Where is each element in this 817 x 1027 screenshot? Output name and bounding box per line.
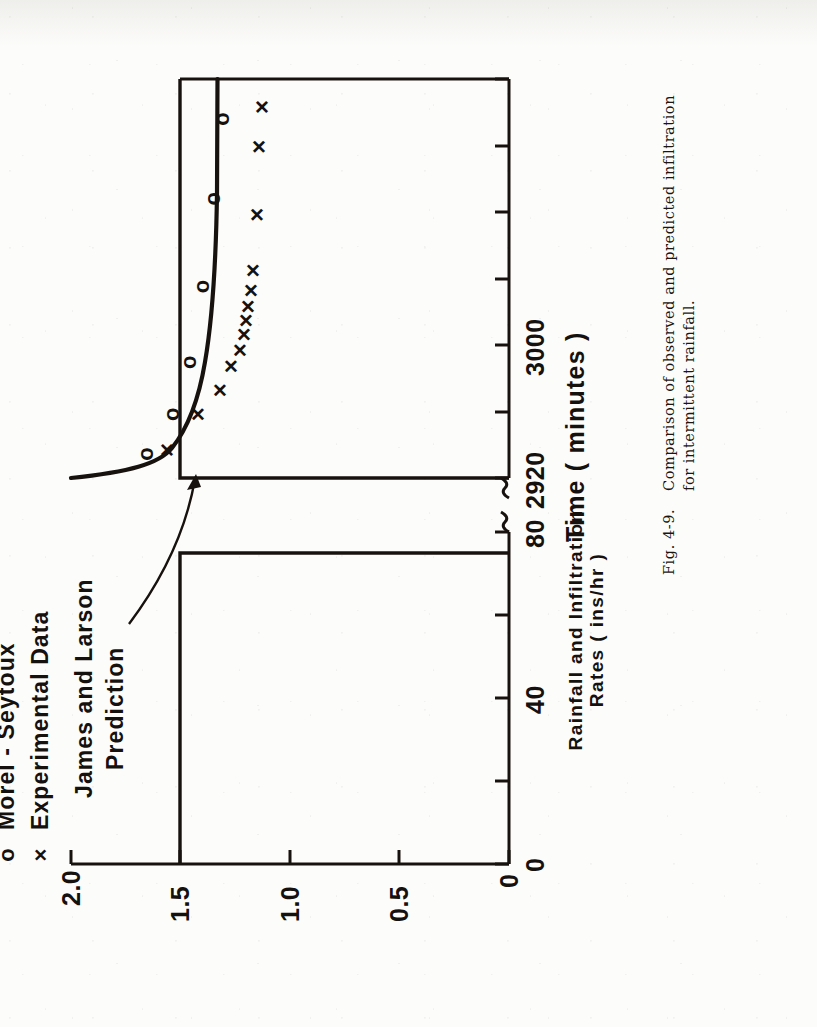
- plot-area: 2.0 1.5 1.0 0.5 0 0 40 80 2920 3000 Time…: [9, 0, 609, 984]
- data-point-cross: ×: [228, 343, 252, 357]
- caption-line-2: for intermittent rainfall.: [679, 95, 699, 491]
- data-point-circle: o: [161, 407, 183, 420]
- data-point-cross: ×: [239, 283, 263, 297]
- data-point-cross: ×: [245, 208, 269, 222]
- data-point-cross: ×: [186, 407, 210, 421]
- data-point-cross: ×: [247, 140, 271, 154]
- data-point-cross: ×: [241, 263, 265, 277]
- data-point-cross: ×: [219, 359, 243, 373]
- figure-number: Fig. 4-9.: [659, 509, 679, 575]
- data-point-circle: o: [202, 192, 224, 205]
- data-point-cross: ×: [236, 299, 260, 313]
- figure-rotated-container: 2.0 1.5 1.0 0.5 0 0 40 80 2920 3000 Time…: [9, 0, 609, 984]
- data-point-cross: ×: [208, 383, 232, 397]
- caption-rotated-container: Fig. 4-9. Comparison of observed and pre…: [659, 35, 779, 575]
- data-point-circle: o: [211, 112, 233, 125]
- data-point-circle: o: [191, 280, 213, 293]
- data-point-cross: ×: [250, 100, 274, 114]
- data-point-cross: ×: [232, 327, 256, 341]
- caption-body: Comparison of observed and predicted inf…: [659, 95, 699, 491]
- caption-line-1: Comparison of observed and predicted inf…: [659, 95, 679, 491]
- data-point-circle: o: [178, 356, 200, 369]
- data-marker-layer: oooooo×××××××××××××: [9, 0, 609, 984]
- data-point-cross: ×: [234, 313, 258, 327]
- data-point-cross: ×: [155, 443, 179, 457]
